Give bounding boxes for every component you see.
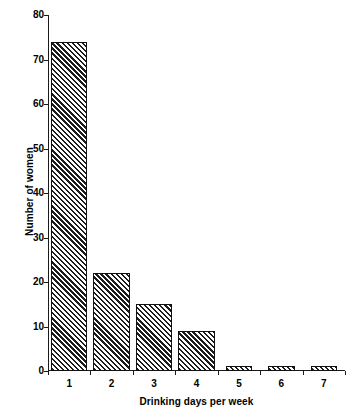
x-tick-label: 3 <box>134 377 174 390</box>
x-axis-tick-labels: 1234567 <box>48 377 345 393</box>
x-tick-label: 2 <box>92 377 132 390</box>
x-tick-mark <box>48 371 49 375</box>
bar <box>136 304 172 371</box>
bar <box>93 273 129 371</box>
x-tick-mark <box>345 371 346 375</box>
plot-area <box>48 15 345 371</box>
bar <box>178 331 214 371</box>
x-tick-mark <box>175 371 176 375</box>
y-tick-label: 70 <box>22 55 44 65</box>
y-tick-label: 0 <box>22 366 44 376</box>
x-tick-mark <box>303 371 304 375</box>
y-tick-label: 80 <box>22 10 44 20</box>
x-axis-title: Drinking days per week <box>48 396 345 407</box>
x-tick-label: 4 <box>177 377 217 390</box>
x-tick-mark <box>260 371 261 375</box>
x-tick-mark <box>218 371 219 375</box>
x-tick-mark <box>133 371 134 375</box>
x-tick-label: 1 <box>49 377 89 390</box>
y-tick-label: 50 <box>22 144 44 154</box>
y-tick-label: 20 <box>22 277 44 287</box>
x-axis-tick-marks <box>48 371 345 376</box>
bar <box>51 42 87 371</box>
y-axis-tick-labels: 01020304050607080 <box>22 0 44 419</box>
y-tick-label: 10 <box>22 322 44 332</box>
bar-chart-figure: Number of women 01020304050607080 123456… <box>0 0 360 419</box>
x-tick-label: 6 <box>261 377 301 390</box>
x-tick-mark <box>90 371 91 375</box>
y-tick-label: 40 <box>22 188 44 198</box>
y-tick-label: 60 <box>22 99 44 109</box>
x-tick-label: 7 <box>304 377 344 390</box>
y-tick-label: 30 <box>22 233 44 243</box>
x-tick-label: 5 <box>219 377 259 390</box>
